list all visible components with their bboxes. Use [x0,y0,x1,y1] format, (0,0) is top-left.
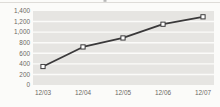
line-chart: 02004006008001,0001,2001,40012/0312/0412… [0,0,220,107]
chart-canvas: 02004006008001,0001,2001,40012/0312/0412… [0,0,220,107]
y-tick-label: 800 [19,39,30,46]
x-tick-label: 12/04 [75,89,91,96]
y-tick-label: 1,400 [14,7,30,14]
y-tick-label: 1,200 [14,18,30,25]
y-tick-label: 0 [26,81,30,88]
data-point [201,15,205,19]
data-point [41,64,45,68]
y-tick-label: 600 [19,50,30,57]
data-point [121,36,125,40]
x-tick-label: 12/03 [35,89,51,96]
x-tick-label: 12/05 [115,89,131,96]
y-tick-label: 400 [19,60,30,67]
x-tick-label: 12/07 [195,89,211,96]
data-point [161,22,165,26]
scan-artifact [104,0,107,2]
y-tick-label: 200 [19,71,30,78]
x-tick-label: 12/06 [155,89,171,96]
top-rule [0,2,220,3]
y-tick-label: 1,000 [14,28,30,35]
data-point [81,45,85,49]
